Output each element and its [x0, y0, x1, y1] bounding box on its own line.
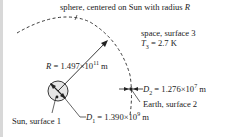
earth-label: Earth, surface 2 — [143, 100, 197, 109]
space-temperature: T3 = 2.7 K — [141, 39, 177, 48]
earth-leader — [131, 89, 140, 102]
sun-label: Sun, surface 1 — [12, 117, 61, 126]
radiation-diagram: sphere, centered on Sun with radius R sp… — [0, 0, 235, 137]
sun-diameter-label: D1 = 1.390×109 m — [86, 113, 149, 122]
radius-label: R = 1.497×1011 m — [46, 62, 108, 71]
space-label: space, surface 3 — [141, 29, 196, 38]
earth-diameter-label: D2 = 1.276×107 m — [143, 85, 206, 94]
d1-leader — [63, 96, 86, 117]
sphere-label: sphere, centered on Sun with radius R — [60, 3, 190, 12]
